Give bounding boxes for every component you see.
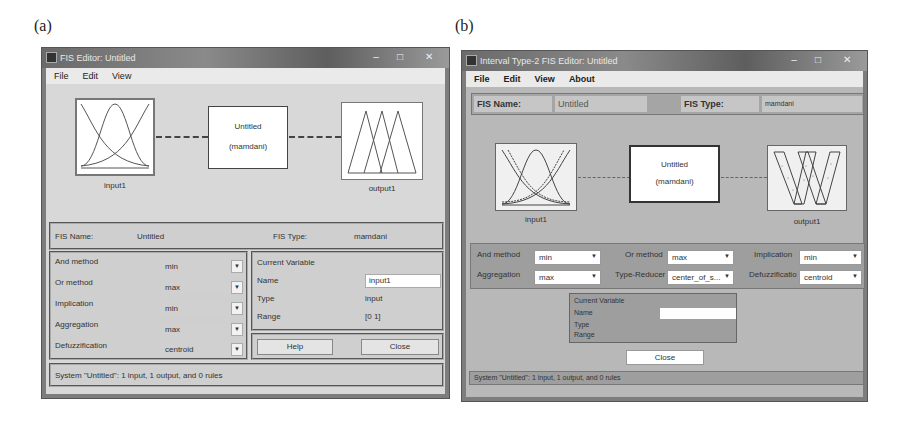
aggregation-dropdown[interactable]: max ▼ (161, 323, 243, 336)
current-variable-group: Current Variable Name Type Range (569, 293, 737, 343)
implication-label: Implication (754, 250, 792, 259)
fis-type-label: FIS Type: (273, 232, 307, 241)
variable-name-label: Name (257, 276, 278, 285)
current-variable-group: Current Variable Name input1 Type input … (251, 251, 444, 331)
input-variable-label: input1 (75, 181, 155, 190)
matlab-app-icon (46, 52, 57, 63)
menu-edit[interactable]: Edit (504, 74, 521, 84)
minimize-button[interactable]: – (365, 50, 387, 64)
and-method-label: And method (55, 257, 98, 266)
or-method-dropdown[interactable]: max ▼ (161, 281, 243, 294)
gaussian-mf-icon (77, 100, 153, 174)
fis-system-type: (mamdani) (631, 177, 718, 186)
defuzzification-value: centroid (804, 273, 832, 282)
defuzzification-dropdown[interactable]: centroid ▼ (799, 270, 862, 285)
aggregation-value: max (539, 273, 554, 282)
connector-line (156, 136, 208, 138)
fis-type-label: FIS Type: (681, 96, 759, 112)
implication-value: min (165, 304, 178, 313)
aggregation-label: Aggregation (55, 320, 98, 329)
fis-system-box[interactable]: Untitled (mamdani) (208, 106, 288, 169)
implication-label: Implication (55, 299, 93, 308)
status-bar: System "Untitled": 1 input, 1 output, an… (49, 363, 444, 387)
fis-name-value: Untitled (555, 96, 647, 112)
menu-edit[interactable]: Edit (83, 71, 99, 81)
fis-name-value: Untitled (137, 232, 164, 241)
variable-type-label: Type (574, 321, 589, 328)
defuzzification-label: Defuzzificatio (749, 270, 797, 279)
connector-line (289, 136, 341, 138)
menu-view[interactable]: View (112, 71, 131, 81)
menu-file[interactable]: File (54, 71, 69, 81)
menu-about[interactable]: About (569, 74, 595, 84)
fis-type-value: mamdani (762, 96, 862, 112)
chevron-down-icon: ▼ (588, 251, 600, 264)
variable-name-input[interactable]: input1 (365, 274, 441, 288)
variable-type-label: Type (257, 294, 274, 303)
aggregation-dropdown[interactable]: max ▼ (534, 270, 601, 285)
close-button[interactable]: Close (361, 339, 439, 355)
or-method-dropdown[interactable]: max ▼ (667, 250, 734, 265)
close-window-button[interactable]: ✕ (831, 53, 863, 67)
fis-system-box[interactable]: Untitled (mamdani) (629, 145, 720, 203)
close-window-button[interactable]: ✕ (413, 50, 445, 64)
variable-type-value: input (365, 294, 382, 303)
window-title: Interval Type-2 FIS Editor: Untitled (480, 56, 617, 66)
type-reducer-dropdown[interactable]: center_of_s... ▼ (667, 270, 734, 285)
menu-file[interactable]: File (474, 74, 490, 84)
chevron-down-icon: ▼ (849, 271, 861, 284)
chevron-down-icon: ▼ (849, 251, 861, 264)
and-method-dropdown[interactable]: min ▼ (534, 250, 601, 265)
help-button[interactable]: Help (257, 339, 333, 355)
and-method-value: min (539, 253, 552, 262)
or-method-label: Or method (625, 250, 663, 259)
output-variable-box[interactable] (767, 145, 847, 211)
maximize-button[interactable]: □ (389, 50, 411, 64)
output-variable-box[interactable] (341, 102, 423, 180)
connector-line (721, 177, 767, 178)
aggregation-label: Aggregation (477, 270, 520, 279)
status-bar: System "Untitled": 1 input, 1 output, an… (469, 371, 864, 385)
status-text: System "Untitled": 1 input, 1 output, an… (55, 371, 223, 380)
interval-gaussian-mf-icon (496, 144, 576, 210)
variable-name-label: Name (574, 309, 593, 316)
and-method-label: And method (477, 250, 520, 259)
title-bar[interactable]: FIS Editor: Untitled – □ ✕ (42, 48, 449, 68)
button-group: Help Close (251, 333, 444, 360)
and-method-value: min (165, 262, 178, 271)
and-method-dropdown[interactable]: min ▼ (161, 260, 243, 273)
close-button[interactable]: Close (626, 350, 704, 365)
fis-info-group: FIS Name: Untitled FIS Type: mamdani (49, 222, 444, 250)
output-variable-label: output1 (342, 184, 422, 193)
variable-range-label: Range (574, 331, 595, 338)
window-title: FIS Editor: Untitled (60, 53, 136, 63)
chevron-down-icon: ▼ (721, 251, 733, 264)
fis-name-label: FIS Name: (474, 96, 552, 112)
minimize-button[interactable]: – (783, 53, 805, 67)
variable-range-label: Range (257, 312, 281, 321)
type-reducer-value: center_of_s... (672, 273, 720, 282)
defuzzification-dropdown[interactable]: centroid ▼ (161, 343, 243, 356)
or-method-value: max (672, 253, 687, 262)
implication-dropdown[interactable]: min ▼ (161, 302, 243, 315)
methods-group: And method min ▼ Or method max ▼ Implica… (470, 243, 865, 289)
chevron-down-icon: ▼ (231, 281, 243, 294)
menu-view[interactable]: View (535, 74, 555, 84)
fis-info-group: FIS Name: Untitled FIS Type: mamdani (471, 93, 864, 115)
chevron-down-icon: ▼ (231, 343, 243, 356)
title-bar[interactable]: Interval Type-2 FIS Editor: Untitled – □… (462, 51, 867, 71)
it2-fis-editor-window: Interval Type-2 FIS Editor: Untitled – □… (461, 50, 868, 402)
panel-label-b: (b) (455, 17, 474, 35)
maximize-button[interactable]: □ (807, 53, 829, 67)
client-area: input1 Untitled (mamdani) output1 FIS Na… (46, 84, 445, 394)
input-variable-box[interactable] (75, 98, 155, 176)
status-text: System "Untitled": 1 input, 1 output, an… (474, 374, 621, 381)
implication-dropdown[interactable]: min ▼ (799, 250, 862, 265)
type-reducer-label: Type-Reducer (615, 270, 665, 279)
chevron-down-icon: ▼ (721, 271, 733, 284)
variable-name-input[interactable] (660, 308, 736, 319)
input-variable-box[interactable] (495, 143, 577, 211)
connector-line (578, 177, 630, 178)
menu-bar: File Edit View (46, 68, 445, 84)
output-variable-label: output1 (767, 217, 847, 226)
